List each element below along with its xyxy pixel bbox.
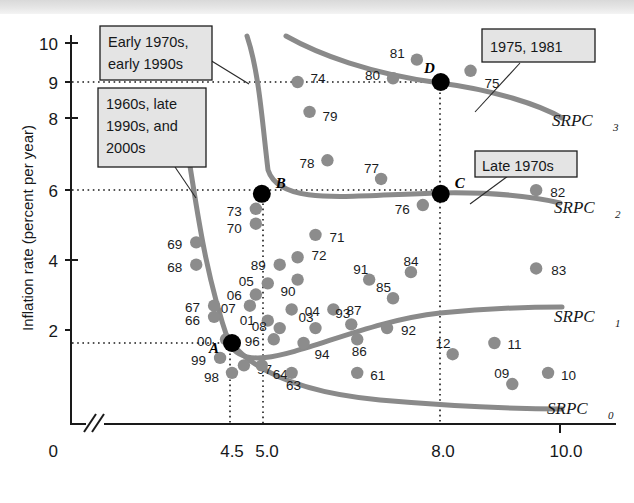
data-point-dot [256, 359, 268, 371]
key-point-label: C [455, 175, 466, 191]
data-point-dot [291, 76, 303, 88]
data-point-dot [208, 300, 220, 312]
data-point-dot [262, 277, 274, 289]
data-point: 68 [167, 259, 202, 275]
key-point-b: B [253, 175, 286, 203]
data-point: 85 [376, 280, 399, 304]
callout-1960s-line-2: 1990s, and [106, 118, 178, 134]
data-point: 05 [239, 274, 274, 289]
data-point-label: 79 [323, 109, 338, 124]
phillips-curve-figure: 10 9 8 6 4 2 0 4.5 5.0 8.0 10.0 Inflatio… [0, 0, 634, 503]
curve-label-srpc3: SRPC 3 [552, 111, 619, 133]
data-point-dot [250, 203, 262, 215]
data-point: 69 [167, 236, 202, 252]
callout-1960s-line-1: 1960s, late [106, 96, 177, 112]
key-point-dot [223, 334, 241, 352]
data-point-dot [464, 65, 476, 77]
data-point-label: 82 [550, 185, 565, 200]
data-point-dot [321, 154, 333, 166]
key-point-c: C [432, 175, 466, 203]
callout-early-1970s: Early 1970s, early 1990s [100, 26, 212, 80]
data-point-dot [274, 322, 286, 334]
x-tick-5-0: 5.0 [255, 442, 279, 461]
data-point-label: 08 [252, 319, 267, 334]
data-point-dot [303, 106, 315, 118]
data-point-label: 78 [299, 156, 314, 171]
data-point-dot [488, 337, 500, 349]
curve-label-srpc0: SRPC 0 [547, 399, 614, 421]
chart-svg: 10 9 8 6 4 2 0 4.5 5.0 8.0 10.0 Inflatio… [0, 0, 634, 503]
data-point-dot [250, 217, 262, 229]
data-point-label: 90 [281, 284, 296, 299]
data-point: 12 [436, 336, 459, 360]
data-point-dot [381, 322, 393, 334]
data-point-dot [351, 367, 363, 379]
callout-1975-1981-line-1: 1975, 1981 [490, 39, 563, 55]
srpc-curves [190, 36, 562, 409]
key-point-label: B [275, 175, 286, 191]
srpc2-sub: 2 [615, 208, 621, 220]
data-point: 98 [204, 367, 238, 385]
data-point-label: 80 [365, 68, 380, 83]
data-point-dot [268, 333, 280, 345]
data-point-label: 12 [436, 336, 451, 351]
data-point-label: 83 [551, 263, 566, 278]
data-point-dot [190, 259, 202, 271]
data-point-label: 70 [227, 221, 242, 236]
data-point: 79 [303, 106, 337, 124]
data-point-dot [226, 367, 238, 379]
key-point-dot [253, 185, 271, 203]
data-point: 74 [291, 71, 326, 88]
srpc3-sub: 3 [612, 121, 619, 133]
data-point-label: 61 [370, 368, 385, 383]
srpc3-base: SRPC [552, 111, 593, 130]
data-point-label: 03 [298, 310, 313, 325]
callout-late-1970s: Late 1970s [475, 151, 577, 177]
srpc1-base: SRPC [554, 307, 595, 326]
data-point-label: 99 [191, 353, 206, 368]
data-point-label: 92 [401, 323, 416, 338]
data-point: 10 [542, 367, 576, 383]
data-point-label: 85 [376, 280, 391, 295]
data-point-dot [238, 359, 250, 371]
callout-leaders [175, 60, 520, 204]
data-point-label: 07 [221, 301, 236, 316]
data-point-dot [244, 300, 256, 312]
y-tick-2: 2 [49, 322, 58, 341]
data-point: 64 [256, 359, 289, 382]
data-point-label: 98 [204, 370, 219, 385]
data-point: 78 [299, 154, 333, 171]
data-point-dot [297, 337, 309, 349]
data-point-label: 66 [185, 313, 200, 328]
data-point: 89 [251, 258, 286, 273]
callout-1975-1981: 1975, 1981 [482, 29, 595, 62]
data-point: 63 [285, 367, 301, 393]
data-point-dot [291, 251, 303, 263]
key-point-label: A [208, 340, 219, 356]
data-point: 11 [488, 337, 521, 352]
page-margin-bottom [0, 461, 634, 503]
data-point-label: 68 [167, 260, 182, 275]
data-point-label: 84 [403, 254, 419, 269]
y-axis-foot [71, 417, 86, 424]
data-point: 96 [245, 333, 280, 349]
data-point-dot [250, 288, 262, 300]
srpc1-sub: 1 [615, 317, 621, 329]
y-tick-10: 10 [39, 35, 58, 54]
data-point-label: 89 [251, 258, 266, 273]
data-point-label: 75 [485, 76, 500, 91]
x-tick-4-5: 4.5 [220, 442, 244, 461]
data-point-label: 77 [364, 161, 379, 176]
data-point: 92 [381, 322, 416, 338]
data-point: 86 [351, 333, 367, 359]
data-point-label: 74 [311, 71, 327, 86]
data-point-dot [309, 229, 321, 241]
data-point: 76 [395, 199, 429, 217]
data-point-dot [208, 311, 220, 323]
data-point-label: 72 [312, 248, 327, 263]
y-axis-title: Inflation rate (percent per year) [19, 125, 36, 331]
data-point: 81 [390, 46, 423, 66]
data-point: 90 [281, 273, 304, 298]
leader-early-1970s [210, 60, 249, 84]
data-point: 84 [403, 254, 419, 278]
